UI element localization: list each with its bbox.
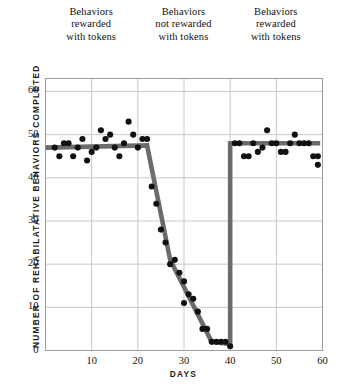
data-point	[236, 140, 242, 146]
data-point	[204, 326, 210, 332]
plot-area	[0, 0, 337, 391]
data-point	[195, 309, 201, 315]
y-tick-label: 0	[13, 344, 39, 355]
data-point	[315, 162, 321, 168]
data-point	[181, 278, 187, 284]
x-tick-label: 30	[171, 355, 197, 366]
data-point	[144, 136, 150, 142]
y-tick-label: 60	[13, 84, 39, 95]
data-point	[158, 227, 164, 233]
data-point	[116, 153, 122, 159]
data-point	[259, 145, 265, 151]
data-point	[223, 339, 229, 345]
data-point	[102, 136, 108, 142]
data-point	[153, 201, 159, 207]
y-tick-label: 30	[13, 214, 39, 225]
data-point	[107, 132, 113, 138]
data-point	[112, 145, 118, 151]
data-point	[130, 132, 136, 138]
data-point	[176, 270, 182, 276]
chart-figure: Behaviors rewarded with tokens Behaviors…	[0, 0, 337, 391]
x-tick-label: 20	[125, 355, 151, 366]
data-point	[315, 153, 321, 159]
data-point	[70, 153, 76, 159]
data-point	[292, 132, 298, 138]
data-point	[264, 127, 270, 133]
data-point	[84, 157, 90, 163]
data-point	[181, 300, 187, 306]
data-point	[79, 136, 85, 142]
data-point	[149, 183, 155, 189]
x-tick-label: 50	[263, 355, 289, 366]
data-point	[255, 149, 261, 155]
data-point	[52, 145, 58, 151]
y-tick-label: 50	[13, 128, 39, 139]
data-point	[250, 140, 256, 146]
data-point	[89, 149, 95, 155]
data-point	[283, 149, 289, 155]
x-tick-label: 10	[79, 355, 105, 366]
data-point	[162, 240, 168, 246]
data-point	[227, 343, 233, 349]
y-tick-label: 20	[13, 257, 39, 268]
x-tick-label: 60	[310, 355, 336, 366]
data-point	[273, 140, 279, 146]
data-point	[56, 153, 62, 159]
data-point	[306, 140, 312, 146]
data-point	[246, 153, 252, 159]
data-point	[190, 296, 196, 302]
data-point	[75, 145, 81, 151]
data-point	[121, 140, 127, 146]
data-point	[287, 140, 293, 146]
y-tick-label: 10	[13, 300, 39, 311]
y-tick-label: 40	[13, 171, 39, 182]
data-point	[135, 145, 141, 151]
data-point	[167, 261, 173, 267]
data-point	[98, 127, 104, 133]
data-point	[93, 145, 99, 151]
data-point	[126, 119, 132, 125]
data-point	[66, 140, 72, 146]
x-tick-label: 40	[217, 355, 243, 366]
data-point	[186, 291, 192, 297]
data-point	[172, 257, 178, 263]
